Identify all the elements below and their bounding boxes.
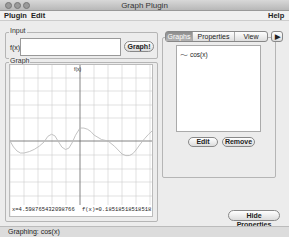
function-input[interactable] — [20, 38, 121, 56]
graph-canvas[interactable]: f(x) x=4.598765432098766 f(x)=0.18518518… — [9, 64, 153, 217]
status-bar: Graphing: cos(x) — [0, 226, 289, 237]
edit-button[interactable]: Edit — [188, 137, 218, 147]
graph-group-label: Graph — [9, 57, 30, 64]
list-item-label: cos(x) — [190, 51, 208, 58]
tab-graphs[interactable]: Graphs — [166, 32, 193, 41]
x-readout: x=4.598765432098766 — [12, 206, 75, 213]
tab-view[interactable]: View — [235, 32, 267, 41]
graphs-list: 〜 cos(x) — [176, 45, 261, 132]
cos-plot — [10, 65, 152, 216]
menu-plugin[interactable]: Plugin — [4, 11, 27, 20]
play-right-icon[interactable]: ▶ — [271, 31, 283, 42]
menu-bar: Plugin Edit Help — [0, 11, 289, 21]
tab-properties[interactable]: Properties — [193, 32, 235, 41]
side-tabs: Graphs Properties View — [165, 31, 268, 42]
list-item[interactable]: 〜 cos(x) — [180, 49, 208, 60]
wave-icon: 〜 — [180, 49, 188, 60]
menu-help[interactable]: Help — [268, 11, 284, 20]
remove-button[interactable]: Remove — [222, 137, 255, 147]
graph-button[interactable]: Graph! — [124, 41, 154, 52]
hide-properties-button[interactable]: Hide Properties — [228, 210, 280, 221]
window-title: Graph Plugin — [0, 1, 289, 10]
fx-readout: f(x)=0.18518518518518 — [82, 206, 151, 213]
title-bar: Graph Plugin — [0, 0, 289, 11]
y-axis-label: f(x) — [74, 66, 81, 72]
menu-edit[interactable]: Edit — [31, 11, 45, 20]
input-group-label: Input — [9, 27, 27, 34]
